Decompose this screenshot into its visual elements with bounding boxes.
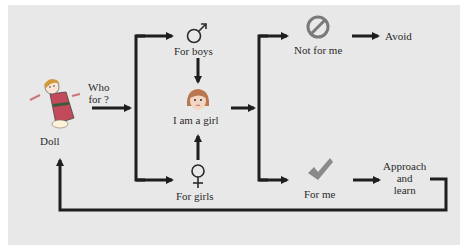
for-boys-label: For boys — [174, 45, 213, 57]
approach-and-learn-label: Approach and learn — [383, 160, 426, 196]
who-for-label: Who for ? — [88, 81, 109, 105]
prohibited-icon — [308, 17, 328, 37]
approach-line3: learn — [383, 184, 426, 196]
i-am-a-girl-label: I am a girl — [173, 114, 219, 126]
female-symbol-icon — [192, 165, 204, 188]
doll-icon — [30, 79, 80, 128]
male-symbol-icon — [188, 24, 207, 43]
for-me-label: For me — [304, 188, 335, 200]
avoid-label: Avoid — [385, 30, 412, 42]
approach-line2: and — [383, 172, 426, 184]
doll-label: Doll — [40, 135, 60, 147]
for-girls-label: For girls — [176, 190, 214, 202]
not-for-me-label: Not for me — [294, 44, 342, 56]
who-for-line1: Who — [88, 81, 109, 93]
approach-line1: Approach — [383, 160, 426, 172]
checkmark-icon — [308, 158, 333, 180]
girl-face-icon — [187, 89, 209, 110]
diagram-canvas: Who for ? Doll For boys I am a girl For … — [0, 0, 468, 249]
who-for-line2: for ? — [88, 93, 109, 105]
